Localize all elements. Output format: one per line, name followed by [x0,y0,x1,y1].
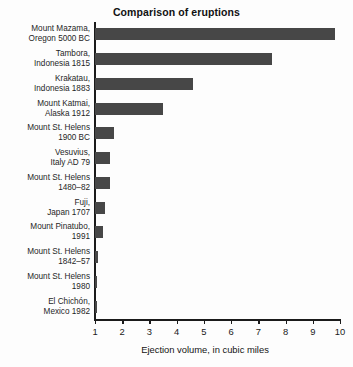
category-label-line: Indonesia 1815 [34,59,90,69]
category-label-line: Vesuvius, [55,148,90,158]
x-axis-tick-label: 1 [83,326,107,337]
x-axis-tick [286,319,287,324]
bar [95,127,114,139]
bar-row: Tambora,Indonesia 1815 [95,47,340,72]
category-label-line: Oregon 5000 BC [29,34,90,44]
category-label-line: 1842–57 [58,257,90,267]
bar-row: El Chichón,Mexico 1982 [95,294,340,319]
bar-row: Mount St. Helens1980 [95,270,340,295]
plot-area: Mount Mazama,Oregon 5000 BCTambora,Indon… [95,22,340,319]
category-label-line: Italy AD 79 [50,158,90,168]
x-axis-tick [177,319,178,324]
x-axis-tick [122,319,123,324]
bar [95,177,110,189]
x-axis-tick [340,319,341,324]
bar-row: Mount St. Helens1480–82 [95,171,340,196]
bar [95,202,105,214]
bar-row: Mount Pinatubo,1991 [95,220,340,245]
bar-row: Mount St. Helens1842–57 [95,245,340,270]
category-label-line: Mount St. Helens [27,247,90,257]
x-axis-tick-label: 10 [328,326,352,337]
bar-row: Krakatau,Indonesia 1883 [95,72,340,97]
x-axis-tick [231,319,232,324]
x-axis-tick-label: 5 [192,326,216,337]
bar-chart: Comparison of eruptions Mount Mazama,Ore… [0,0,353,367]
category-label: Mount St. Helens1480–82 [2,171,90,196]
category-label: Mount Katmai,Alaska 1912 [2,96,90,121]
bar [95,78,193,90]
x-axis-tick-label: 4 [165,326,189,337]
category-label-line: Krakatau, [55,74,90,84]
x-axis-title: Ejection volume, in cubic miles [60,344,350,355]
category-label-line: El Chichón, [48,297,90,307]
category-label: Tambora,Indonesia 1815 [2,47,90,72]
category-label-line: 1900 BC [58,133,90,143]
category-label-line: Tambora, [56,49,90,59]
bar [95,276,97,288]
bar [95,301,97,313]
bar [95,226,103,238]
bar [95,251,98,263]
category-label-line: Alaska 1912 [45,109,90,119]
category-label: El Chichón,Mexico 1982 [2,294,90,319]
x-axis-tick-label: 8 [274,326,298,337]
x-axis-tick [95,319,96,324]
category-label-line: Mount Katmai, [37,99,90,109]
x-axis-tick-label: 2 [110,326,134,337]
x-axis-line [94,319,340,321]
bar [95,103,163,115]
category-label-line: Japan 1707 [47,208,90,218]
category-label: Fuji,Japan 1707 [2,195,90,220]
chart-title: Comparison of eruptions [0,6,353,18]
category-label-line: Mount Mazama, [31,24,90,34]
category-label: Mount St. Helens1980 [2,270,90,295]
x-axis-tick-label: 6 [219,326,243,337]
x-axis-tick [149,319,150,324]
x-axis-tick-label: 3 [137,326,161,337]
bar [95,152,110,164]
category-label-line: 1991 [72,232,90,242]
x-axis-tick-label: 9 [301,326,325,337]
x-axis-tick [313,319,314,324]
category-label-line: Mount St. Helens [27,123,90,133]
category-label-line: Mexico 1982 [44,307,90,317]
category-label-line: Fuji, [75,198,90,208]
category-label: Krakatau,Indonesia 1883 [2,72,90,97]
category-label: Mount Pinatubo,1991 [2,220,90,245]
bar-row: Fuji,Japan 1707 [95,195,340,220]
bar [95,53,272,65]
bar-row: Mount St. Helens1900 BC [95,121,340,146]
category-label-line: Mount St. Helens [27,173,90,183]
bar-row: Vesuvius,Italy AD 79 [95,146,340,171]
category-label: Mount St. Helens1842–57 [2,245,90,270]
bar-row: Mount Katmai,Alaska 1912 [95,96,340,121]
category-label: Vesuvius,Italy AD 79 [2,146,90,171]
bar-row: Mount Mazama,Oregon 5000 BC [95,22,340,47]
category-label-line: Indonesia 1883 [34,84,90,94]
category-label-line: 1480–82 [58,183,90,193]
bar [95,28,335,40]
x-axis-tick [258,319,259,324]
category-label-line: Mount Pinatubo, [30,222,90,232]
category-label: Mount Mazama,Oregon 5000 BC [2,22,90,47]
x-axis-tick [204,319,205,324]
x-axis-tick-label: 7 [246,326,270,337]
category-label: Mount St. Helens1900 BC [2,121,90,146]
category-label-line: Mount St. Helens [27,272,90,282]
category-label-line: 1980 [72,282,90,292]
